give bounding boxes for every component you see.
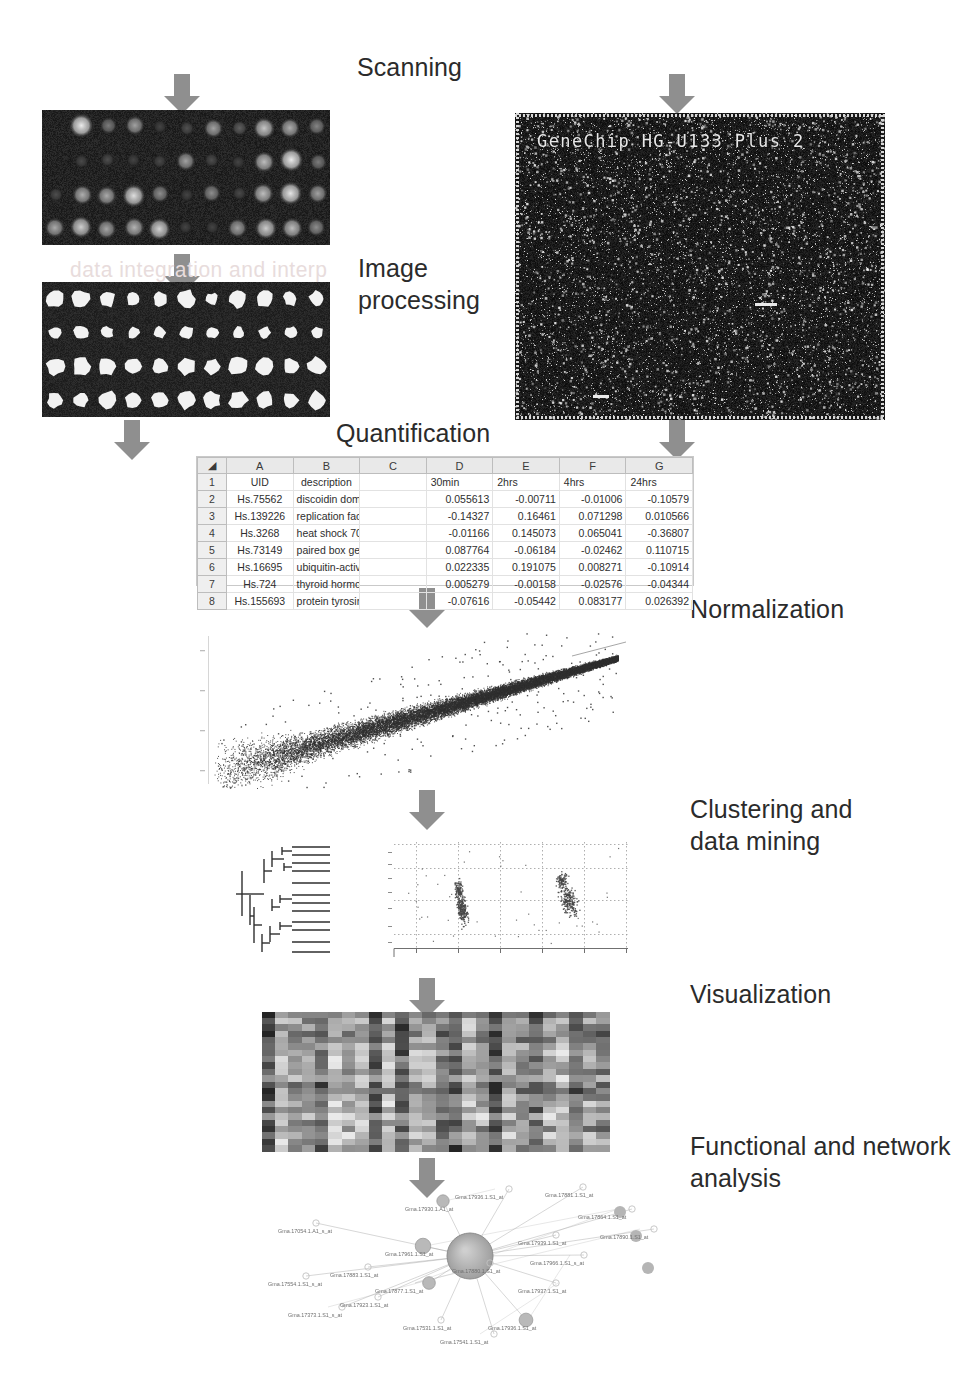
cell-description[interactable]: heat shock 70kD p [293,525,360,542]
row-number[interactable]: 1 [198,474,227,491]
row-number[interactable]: 5 [198,542,227,559]
scan-artifact-text: data integration and interp [70,257,328,282]
network-node-label: Gma.17864.1.S1_at [578,1214,626,1220]
table-row[interactable]: 4Hs.3268heat shock 70kD p-0.011660.14507… [198,525,693,542]
spreadsheet-header-row: 1 UID description 30min 2hrs 4hrs 24hrs [198,474,693,491]
header-uid: UID [227,474,294,491]
col-D[interactable]: D [426,458,493,474]
cell-blank[interactable] [360,576,427,593]
network-node-label: Gma.17890.1.S1_at [600,1234,648,1240]
cell-blank[interactable] [360,525,427,542]
cell-4hrs[interactable]: 0.071298 [559,508,626,525]
col-G[interactable]: G [626,458,693,474]
cell-30min[interactable]: -0.14327 [426,508,493,525]
table-row[interactable]: 5Hs.73149paired box gene 80.087764-0.061… [198,542,693,559]
arrow-down-functional-analysis [405,1156,449,1200]
cell-blank[interactable] [360,593,427,610]
expression-heatmap [262,1012,610,1152]
col-corner[interactable]: ◢ [198,458,227,474]
cell-blank[interactable] [360,542,427,559]
cell-uid[interactable]: Hs.155693 [227,593,294,610]
table-row[interactable]: 2Hs.75562discoidin domain r0.055613-0.00… [198,491,693,508]
cell-24hrs[interactable]: 0.110715 [626,542,693,559]
genechip-array-image: GeneChip HG-U133 Plus 2 [515,113,885,420]
cluster-scatter-plot [386,838,630,960]
cell-uid[interactable]: Hs.139226 [227,508,294,525]
row-number[interactable]: 7 [198,576,227,593]
network-node-label: Gma.17936.1.S1_at [455,1194,503,1200]
network-node-label: Gma.17939.1.S1_at [518,1240,566,1246]
cell-30min[interactable]: 0.022335 [426,559,493,576]
row-number[interactable]: 4 [198,525,227,542]
cluster-dendrogram [236,838,336,958]
cell-description[interactable]: paired box gene 8 [293,542,360,559]
cell-4hrs[interactable]: -0.01006 [559,491,626,508]
step-label-image-processing: Image processing [358,252,480,316]
col-B[interactable]: B [293,458,360,474]
cell-2hrs[interactable]: 0.191075 [493,559,560,576]
step-label-scanning: Scanning [357,51,462,83]
cell-uid[interactable]: Hs.3268 [227,525,294,542]
cell-blank[interactable] [360,508,427,525]
cell-2hrs[interactable]: -0.00158 [493,576,560,593]
table-row[interactable]: 7Hs.724thyroid hormone re0.005279-0.0015… [198,576,693,593]
header-4hrs: 4hrs [559,474,626,491]
network-node-label: Gma.17923.1.S1_at [340,1302,388,1308]
row-number[interactable]: 3 [198,508,227,525]
col-C[interactable]: C [360,458,427,474]
cell-description[interactable]: protein tyrosine ph [293,593,360,610]
cell-30min[interactable]: 0.055613 [426,491,493,508]
cell-30min[interactable]: 0.005279 [426,576,493,593]
arrow-down-scanning-right [655,72,699,116]
table-row[interactable]: 3Hs.139226replication factor C-0.143270.… [198,508,693,525]
cell-24hrs[interactable]: -0.10579 [626,491,693,508]
cell-4hrs[interactable]: 0.083177 [559,593,626,610]
cell-uid[interactable]: Hs.724 [227,576,294,593]
cell-description[interactable]: discoidin domain r [293,491,360,508]
row-number[interactable]: 6 [198,559,227,576]
cell-2hrs[interactable]: -0.00711 [493,491,560,508]
table-row[interactable]: 8Hs.155693protein tyrosine ph-0.07616-0.… [198,593,693,610]
header-blank [360,474,427,491]
cell-2hrs[interactable]: 0.145073 [493,525,560,542]
cell-4hrs[interactable]: 0.008271 [559,559,626,576]
cell-description[interactable]: thyroid hormone re [293,576,360,593]
cell-4hrs[interactable]: -0.02576 [559,576,626,593]
step-label-quantification: Quantification [336,417,490,449]
cell-4hrs[interactable]: 0.065041 [559,525,626,542]
workflow-diagram: Scanning Image processing Quantification… [0,0,980,1380]
cell-24hrs[interactable]: -0.36807 [626,525,693,542]
col-A[interactable]: A [227,458,294,474]
spreadsheet-table: ◢ A B C D E F G 1 UID description 30min … [197,457,693,610]
quantification-spreadsheet[interactable]: ◢ A B C D E F G 1 UID description 30min … [196,456,694,586]
network-node-label: Gma.17961.1.S1_at [385,1251,433,1257]
cell-30min[interactable]: -0.01166 [426,525,493,542]
cell-2hrs[interactable]: 0.16461 [493,508,560,525]
segmented-microarray-image [42,282,330,417]
cell-blank[interactable] [360,559,427,576]
cell-uid[interactable]: Hs.73149 [227,542,294,559]
cell-2hrs[interactable]: -0.06184 [493,542,560,559]
network-node-label: Gma.17930.1.A1_at [405,1206,453,1212]
col-F[interactable]: F [559,458,626,474]
cell-description[interactable]: replication factor C [293,508,360,525]
cell-24hrs[interactable]: 0.010566 [626,508,693,525]
cell-24hrs[interactable]: -0.10914 [626,559,693,576]
step-label-visualization: Visualization [690,978,831,1010]
cell-24hrs[interactable]: 0.026392 [626,593,693,610]
cell-uid[interactable]: Hs.75562 [227,491,294,508]
spreadsheet-body: 2Hs.75562discoidin domain r0.055613-0.00… [198,491,693,610]
cell-description[interactable]: ubiquitin-activating [293,559,360,576]
cell-uid[interactable]: Hs.16695 [227,559,294,576]
row-number[interactable]: 8 [198,593,227,610]
cell-24hrs[interactable]: -0.04344 [626,576,693,593]
cell-4hrs[interactable]: -0.02462 [559,542,626,559]
cell-30min[interactable]: 0.087764 [426,542,493,559]
cell-30min[interactable]: -0.07616 [426,593,493,610]
table-row[interactable]: 6Hs.16695ubiquitin-activating0.0223350.1… [198,559,693,576]
cell-blank[interactable] [360,491,427,508]
network-node-label: Gma.17966.1.S1_s_at [530,1260,584,1266]
col-E[interactable]: E [493,458,560,474]
cell-2hrs[interactable]: -0.05442 [493,593,560,610]
row-number[interactable]: 2 [198,491,227,508]
